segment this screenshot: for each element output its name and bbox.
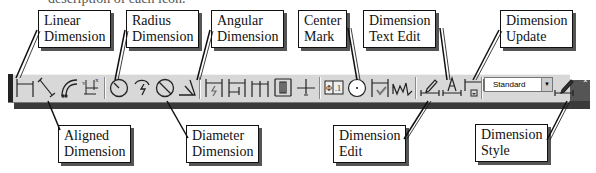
callout-line: Dimension	[64, 144, 125, 160]
linear-dimension-button[interactable]	[14, 76, 36, 99]
svg-text:Φ: Φ	[326, 84, 332, 93]
svg-text:.1: .1	[335, 84, 341, 93]
angular-dimension-icon	[176, 76, 198, 99]
toolbar-grip-handle[interactable]	[8, 74, 13, 102]
arc-length-button[interactable]	[58, 76, 80, 99]
callout-line: Style	[481, 143, 542, 159]
continue-dimension-button[interactable]	[249, 76, 271, 99]
radius-dimension-button[interactable]	[108, 76, 130, 99]
dimension-text-edit-button[interactable]	[441, 76, 463, 99]
linear-dimension-icon	[14, 76, 36, 99]
toolbar-separator	[319, 77, 321, 99]
callout-diameter-dimension: Diameter Dimension	[186, 125, 259, 163]
ordinate-dimension-button[interactable]: YX	[80, 76, 102, 99]
dimension-style-icon	[553, 76, 575, 99]
dimension-edit-button[interactable]	[419, 76, 441, 99]
toolbar-separator	[199, 77, 201, 99]
continue-dimension-icon	[249, 76, 271, 99]
tolerance-button[interactable]: Φ.1	[323, 76, 345, 99]
svg-text:X: X	[95, 78, 99, 83]
callout-line: Aligned	[64, 128, 125, 144]
dimension-edit-icon	[419, 76, 441, 99]
baseline-dimension-button[interactable]	[226, 76, 248, 99]
tolerance-icon: Φ.1	[323, 76, 345, 99]
callout-linear-dimension: Linear Dimension	[38, 10, 111, 48]
toolbar-separator	[481, 77, 483, 99]
callout-line: Linear	[44, 13, 105, 29]
jogged-linear-icon	[391, 76, 413, 99]
callout-dimension-edit: Dimension Edit	[333, 125, 406, 163]
toolbar-separator	[415, 77, 417, 99]
quick-dimension-button[interactable]	[203, 76, 225, 99]
callout-line: Dimension	[44, 29, 105, 45]
callout-line: Diameter	[192, 128, 253, 144]
callout-line: Angular	[217, 13, 278, 29]
inspection-button[interactable]	[369, 76, 391, 99]
angular-dimension-button[interactable]	[176, 76, 198, 99]
radius-dimension-icon	[108, 76, 130, 99]
dimension-space-icon	[272, 76, 294, 99]
callout-line: Dimension	[369, 13, 430, 29]
diameter-dimension-button[interactable]	[154, 76, 176, 99]
dimension-style-dropdown[interactable]: Standard ▼	[484, 77, 553, 92]
callout-line: Edit	[339, 144, 400, 160]
caption-fragment: description of each icon.	[48, 0, 186, 7]
dimension-break-icon	[295, 76, 317, 99]
callout-line: Dimension	[132, 29, 193, 45]
dimension-break-button[interactable]	[295, 76, 317, 99]
callout-line: Radius	[132, 13, 193, 29]
callout-line: Dimension	[506, 13, 567, 29]
aligned-dimension-button[interactable]	[36, 76, 58, 99]
svg-text:Y: Y	[82, 81, 86, 86]
callout-angular-dimension: Angular Dimension	[211, 10, 284, 48]
dimension-text-edit-icon	[441, 76, 463, 99]
dimension-style-value: Standard	[485, 80, 525, 89]
ordinate-dimension-icon: YX	[80, 76, 102, 99]
jogged-dimension-button[interactable]	[131, 76, 153, 99]
callout-dimension-style: Dimension Style	[475, 124, 548, 162]
callout-line: Dimension	[192, 144, 253, 160]
quick-dimension-icon	[203, 76, 225, 99]
callout-radius-dimension: Radius Dimension	[126, 10, 199, 48]
center-mark-button[interactable]	[346, 76, 368, 99]
callout-aligned-dimension: Aligned Dimension	[58, 125, 131, 163]
jogged-dimension-icon	[131, 76, 153, 99]
callout-line: Dimension	[339, 128, 400, 144]
chevron-down-icon[interactable]: ▼	[541, 78, 552, 91]
diameter-dimension-icon	[154, 76, 176, 99]
callout-dimension-update: Dimension Update	[500, 10, 573, 48]
callout-line: Mark	[304, 29, 341, 45]
dimension-style-button[interactable]	[553, 76, 575, 99]
callout-line: Dimension	[217, 29, 278, 45]
callout-line: Update	[506, 29, 567, 45]
arc-length-icon	[58, 76, 80, 99]
baseline-dimension-icon	[226, 76, 248, 99]
callout-dimension-text-edit: Dimension Text Edit	[363, 10, 436, 48]
dimension-space-button[interactable]	[272, 76, 294, 99]
center-mark-icon	[346, 76, 368, 99]
callout-line: Center	[304, 13, 341, 29]
callout-line: Text Edit	[369, 29, 430, 45]
inspection-icon	[369, 76, 391, 99]
callout-center-mark: Center Mark	[298, 10, 347, 48]
jogged-linear-button[interactable]	[391, 76, 413, 99]
callout-line: Dimension	[481, 127, 542, 143]
aligned-dimension-icon	[36, 76, 58, 99]
toolbar-separator	[104, 77, 106, 99]
close-icon[interactable]: ×	[583, 76, 588, 85]
